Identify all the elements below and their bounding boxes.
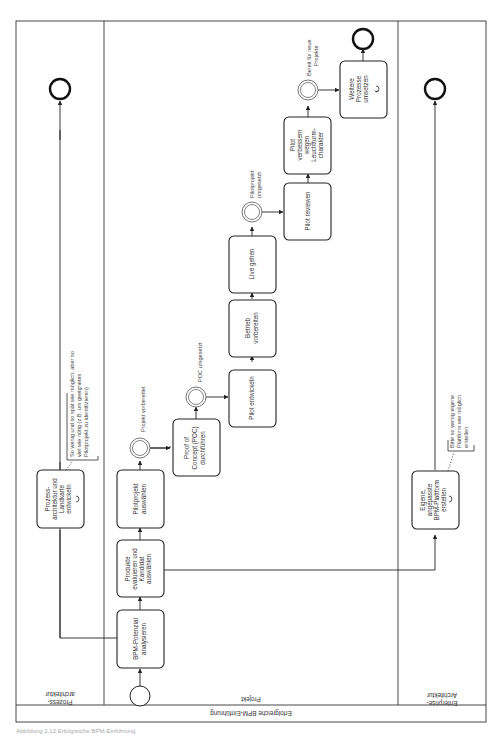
svg-text:analysieren: analysieren <box>140 622 148 655</box>
svg-text:erstellen: erstellen <box>463 427 469 448</box>
svg-text:Prozesse: Prozesse <box>355 75 362 102</box>
event-label-bereit: Bereit für neue Projekte <box>306 39 319 76</box>
event-label-pilot-umgesetzt: Pilotprojekt umgesetzt <box>249 170 262 198</box>
task-plattform-erstellen[interactable]: Eigene, angepasste BPM-Plattform erstell… <box>412 471 459 529</box>
svg-text:erstellen: erstellen <box>440 488 447 512</box>
start-event[interactable] <box>130 686 150 706</box>
svg-text:Weitere: Weitere <box>348 78 355 100</box>
svg-text:Proof of: Proof of <box>183 437 190 459</box>
intermediate-event-poc-umgesetzt[interactable] <box>186 387 206 407</box>
task-pilot-verbessern[interactable]: Pilot verbessern wegen Leuchtturm- chara… <box>284 117 331 174</box>
task-betrieb-vorbereiten[interactable]: Betrieb vorbereiten <box>229 300 276 357</box>
svg-text:verbessern: verbessern <box>296 129 303 161</box>
intermediate-event-projekt-vorbereitet[interactable] <box>130 438 150 458</box>
task-proof-of-concept[interactable]: Proof of Concept (POC) durchführen <box>173 419 220 476</box>
svg-text:Concept (POC): Concept (POC) <box>191 426 199 469</box>
sequence-flows <box>60 49 435 687</box>
svg-text:Projekte: Projekte <box>313 45 319 66</box>
svg-text:BPM-Plattform: BPM-Plattform <box>433 480 440 521</box>
task-pilot-reviewen[interactable]: Pilot reviewen <box>284 183 331 240</box>
lane-label-projekt: Projekt <box>241 695 261 703</box>
event-label-poc-umgesetzt: POC umgesetzt <box>197 342 203 382</box>
svg-text:evaluieren und: evaluieren und <box>131 548 138 590</box>
svg-text:Bitte so wenig eigene: Bitte so wenig eigene <box>449 395 455 448</box>
pool-label: Erfolgreiche BPM-Einführung <box>210 709 292 717</box>
svg-text:umgesetzt: umgesetzt <box>256 172 262 198</box>
figure-caption: Abbildung 2.12 Erfolgreiche BPM-Einführu… <box>16 728 135 734</box>
svg-text:Pilot: Pilot <box>289 139 296 151</box>
lane-label-enterprise: Enterprise- Architektur <box>427 692 458 707</box>
task-prozessarchitektur-entwickeln[interactable]: Prozess- architektur und Landkarte entwi… <box>37 470 84 528</box>
task-bpm-potenzial[interactable]: BPM-Potenzial analysieren <box>117 610 164 668</box>
svg-text:Produkte: Produkte <box>124 556 131 582</box>
svg-text:charakter: charakter <box>317 132 324 158</box>
task-pilotprojekt-auswaehlen[interactable]: Pilotprojekt auswählen <box>117 470 164 528</box>
task-weitere-prozesse[interactable]: Weitere Prozesse umsetzen <box>340 61 387 118</box>
task-pilot-entwickeln[interactable]: Pilot entwickeln <box>229 370 276 427</box>
svg-text:Leuchtturm-: Leuchtturm- <box>310 128 317 162</box>
svg-text:Prozess-: Prozess- <box>48 699 73 706</box>
task-live-gehen[interactable]: Live gehen <box>229 236 276 293</box>
svg-text:Bereit für neue: Bereit für neue <box>306 39 312 76</box>
task-produkte-evaluieren[interactable]: Produkte evaluieren und Kandidat auswähl… <box>117 540 164 597</box>
svg-text:durchführen: durchführen <box>199 431 206 465</box>
lane-label-prozessarchitektur: Prozess- architektur <box>45 691 74 706</box>
svg-text:architektur und: architektur und <box>51 478 58 520</box>
svg-text:BPM-Potenzial: BPM-Potenzial <box>132 618 139 660</box>
annotation-prozessarchitektur: So wenig und so spät wie möglich, aber s… <box>66 351 98 470</box>
svg-text:Pilotprojekt: Pilotprojekt <box>249 170 255 198</box>
svg-text:So wenig und so spät wie mögli: So wenig und so spät wie möglich, aber s… <box>69 351 75 457</box>
svg-text:Pilot entwickeln: Pilot entwickeln <box>248 376 255 420</box>
svg-text:Kandidat: Kandidat <box>138 556 145 581</box>
end-event-prozessarchitektur[interactable] <box>50 79 70 99</box>
svg-text:Pilotprojekt zu identifizieren: Pilotprojekt zu identifizieren) <box>83 387 89 457</box>
bpmn-diagram: Erfolgreiche BPM-Einführung Prozess- arc… <box>0 0 501 736</box>
svg-text:viel wie nötig (z.B. um geeign: viel wie nötig (z.B. um geeignetes <box>76 373 82 457</box>
svg-text:Pilot reviewen: Pilot reviewen <box>304 191 311 231</box>
svg-text:Betrieb: Betrieb <box>244 318 251 338</box>
event-label-projekt-vorbereitet: Projekt vorbereitet <box>140 386 146 432</box>
svg-text:vorbereiten: vorbereiten <box>252 312 259 344</box>
intermediate-event-bereit[interactable] <box>298 80 318 100</box>
svg-text:Pilotprojekt: Pilotprojekt <box>132 483 140 514</box>
svg-text:auswählen: auswählen <box>145 553 152 584</box>
svg-text:Architektur: Architektur <box>427 692 457 699</box>
annotation-plattform: Bitte so wenig eigene Plattform wie mögl… <box>448 395 474 471</box>
svg-text:Landkarte: Landkarte <box>58 485 65 514</box>
svg-text:umsetzen: umsetzen <box>362 75 369 103</box>
end-event-projekt[interactable] <box>353 29 373 49</box>
svg-text:Enterprise-: Enterprise- <box>427 699 458 707</box>
svg-text:architektur: architektur <box>45 691 74 698</box>
end-event-enterprise[interactable] <box>425 79 445 99</box>
intermediate-event-pilot-umgesetzt[interactable] <box>242 202 262 222</box>
svg-text:Plattform wie möglich: Plattform wie möglich <box>456 395 462 448</box>
svg-text:Live gehen: Live gehen <box>248 248 256 279</box>
svg-text:auswählen: auswählen <box>140 483 147 514</box>
svg-text:entwickeln: entwickeln <box>65 484 72 514</box>
svg-text:Prozess-: Prozess- <box>44 487 51 512</box>
